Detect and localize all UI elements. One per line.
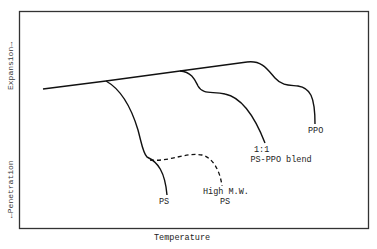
label-ps: PS [159, 197, 169, 207]
x-axis-label: Temperature [154, 233, 210, 243]
label-high-mw-line1: High M.W. [203, 187, 247, 197]
ppo-curve [247, 62, 315, 124]
label-high-mw-line2: PS [203, 197, 247, 207]
y-axis-label-expansion: Expansion→ [6, 42, 15, 90]
label-blend-line1: 1:1 [246, 145, 316, 155]
baseline-curve [43, 62, 247, 89]
tma-diagram: Expansion→ ←Penetration Temperature PS H… [0, 0, 377, 249]
blend-curve [180, 71, 265, 143]
plot-frame [20, 12, 369, 229]
label-ppo: PPO [308, 126, 323, 136]
ps-curve [106, 81, 167, 195]
label-blend: 1:1 PS-PPO blend [246, 145, 316, 165]
y-axis-label-penetration: ←Penetration [6, 160, 15, 218]
label-high-mw-ps: High M.W. PS [203, 187, 247, 207]
plot-area [0, 0, 377, 249]
label-blend-line2: PS-PPO blend [246, 155, 316, 165]
